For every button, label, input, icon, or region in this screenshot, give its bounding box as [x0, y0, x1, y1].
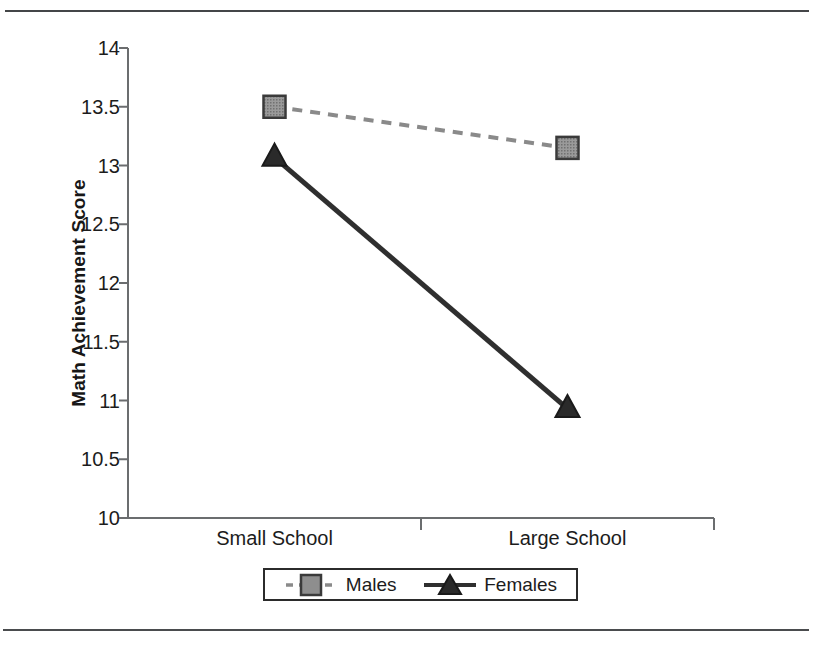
series-females — [263, 144, 580, 417]
series-line — [275, 107, 568, 148]
data-point-triangle — [263, 144, 287, 166]
data-point-square — [557, 137, 579, 159]
legend-marker-square — [301, 575, 321, 595]
legend-label: Females — [484, 575, 557, 594]
chart-legend: MalesFemales — [263, 568, 578, 601]
data-point-square — [264, 96, 286, 118]
legend-item-females[interactable]: Females — [422, 572, 557, 598]
chart-figure: Math Achievement Score 1010.51111.51212.… — [0, 0, 813, 645]
plot-area — [0, 0, 813, 645]
legend-item-males[interactable]: Males — [284, 572, 397, 598]
series-line — [275, 157, 568, 408]
legend-label: Males — [346, 575, 397, 594]
series-males — [264, 96, 579, 159]
legend-swatch-triangle-icon — [422, 572, 478, 598]
legend-swatch-square-icon — [284, 572, 340, 598]
